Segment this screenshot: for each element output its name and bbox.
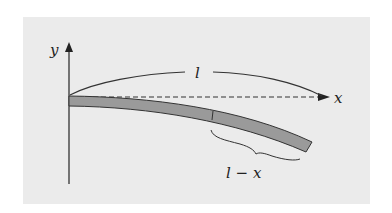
y-axis — [65, 42, 73, 184]
beam — [69, 96, 312, 152]
length-arc — [70, 72, 185, 95]
x-axis-arrow-icon — [318, 93, 330, 101]
y-axis-arrow-icon — [65, 42, 73, 52]
length-arc-tail — [213, 72, 322, 96]
y-axis-label: y — [49, 41, 59, 59]
length-label: l — [195, 64, 200, 82]
remaining-length-label: l − x — [226, 164, 262, 182]
x-axis-label: x — [334, 89, 343, 107]
beam-diagram: y x l l − x — [0, 0, 392, 213]
